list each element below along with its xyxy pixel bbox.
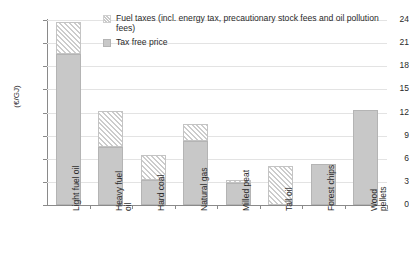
- y-axis-title: (€/GJ): [12, 67, 21, 127]
- legend-label-fuel-taxes: Fuel taxes (incl. energy tax, precaution…: [116, 13, 388, 34]
- x-tick-label: Light fuel oil: [72, 153, 81, 211]
- legend-swatch-solid-icon: [103, 39, 111, 47]
- x-tick-label: Tall oil: [285, 153, 294, 211]
- legend-swatch-hatched-icon: [103, 15, 111, 23]
- gridline: [47, 66, 387, 67]
- x-tick-label: Natural gas: [200, 153, 209, 211]
- gridline: [47, 89, 387, 90]
- bar-segment-fuel-taxes: [98, 111, 123, 147]
- x-tick-label: Forest chips: [327, 153, 336, 211]
- x-tick-mark: [217, 205, 218, 209]
- x-tick-mark: [345, 205, 346, 209]
- x-tick-label: Heavy fuel oil: [115, 153, 133, 211]
- x-tick-label: Hard coal: [157, 153, 166, 211]
- x-tick-mark: [175, 205, 176, 209]
- bar-segment-fuel-taxes: [56, 22, 81, 54]
- x-tick-label: Milled peat: [242, 153, 251, 211]
- legend-item-fuel-taxes: Fuel taxes (incl. energy tax, precaution…: [103, 13, 403, 34]
- chart-legend: Fuel taxes (incl. energy tax, precaution…: [103, 13, 403, 50]
- x-tick-mark: [90, 205, 91, 209]
- bar-chart: (€/GJ) 03691215182124 Light fuel oilHeav…: [0, 0, 409, 269]
- legend-item-tax-free-price: Tax free price: [103, 37, 403, 47]
- bar-segment-fuel-taxes: [183, 124, 208, 141]
- x-tick-mark: [302, 205, 303, 209]
- x-tick-mark: [260, 205, 261, 209]
- legend-label-tax-free-price: Tax free price: [116, 37, 168, 47]
- x-tick-label: Wood pellets: [370, 153, 388, 211]
